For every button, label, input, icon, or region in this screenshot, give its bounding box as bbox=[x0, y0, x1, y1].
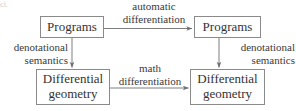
node-programs-target[interactable]: Programs bbox=[194, 16, 261, 38]
edge-label-denotational-semantics-left: denotational semantics bbox=[0, 41, 68, 67]
edge-label-line: semantics bbox=[0, 54, 68, 67]
edge-label-line: automatic bbox=[110, 0, 198, 13]
node-differential-geometry-target[interactable]: Differential geometry bbox=[190, 69, 265, 105]
edge-label-line: denotational bbox=[0, 41, 68, 54]
edge-label-line: differentiation bbox=[110, 75, 190, 88]
edge-label-line: math bbox=[110, 62, 190, 75]
node-differential-geometry-source[interactable]: Differential geometry bbox=[36, 69, 110, 105]
edge-label-automatic-differentiation: automatic differentiation bbox=[110, 0, 198, 26]
node-label-line: geometry bbox=[48, 87, 97, 102]
edge-label-line: denotational bbox=[222, 41, 295, 54]
node-programs-source[interactable]: Programs bbox=[40, 16, 104, 38]
edge-label-line: semantics bbox=[222, 54, 295, 67]
edge-label-line: differentiation bbox=[110, 13, 198, 26]
node-label-line: Programs bbox=[203, 20, 253, 35]
node-label-line: Programs bbox=[47, 20, 97, 35]
node-label-line: Differential bbox=[197, 72, 257, 87]
edge-label-math-differentiation: math differentiation bbox=[110, 62, 190, 88]
node-label-line: geometry bbox=[203, 87, 252, 102]
node-label-line: Differential bbox=[43, 72, 103, 87]
diagram-canvas: cj, Programs Programs Differential geome… bbox=[0, 0, 296, 111]
clipped-text-artifact: cj, bbox=[0, 0, 16, 7]
edge-label-denotational-semantics-right: denotational semantics bbox=[222, 41, 295, 67]
